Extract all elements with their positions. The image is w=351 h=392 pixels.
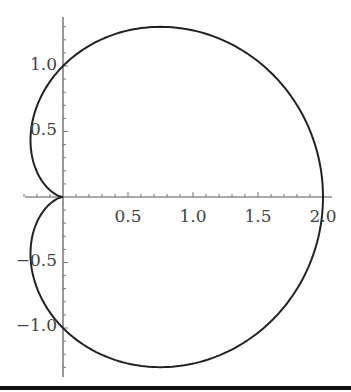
bottom-rule [0, 386, 351, 390]
x-tick-label-2.0: 2.0 [309, 206, 336, 226]
x-tick-label-0.5: 0.5 [114, 206, 141, 226]
x-tick-label-1.5: 1.5 [244, 206, 271, 226]
y-tick-label-neg-1.0: −1.0 [16, 315, 57, 335]
y-tick-label-1.0: 1.0 [30, 54, 57, 74]
x-tick-label-1.0: 1.0 [179, 206, 206, 226]
cardioid-plot: 0.5 1.0 1.5 2.0 1.0 0.5 −0.5 −1.0 [0, 0, 351, 392]
tick-labels: 0.5 1.0 1.5 2.0 1.0 0.5 −0.5 −1.0 [16, 54, 337, 335]
y-tick-label-0.5: 0.5 [30, 119, 57, 139]
axes [25, 17, 332, 377]
y-tick-label-neg-0.5: −0.5 [16, 250, 57, 270]
